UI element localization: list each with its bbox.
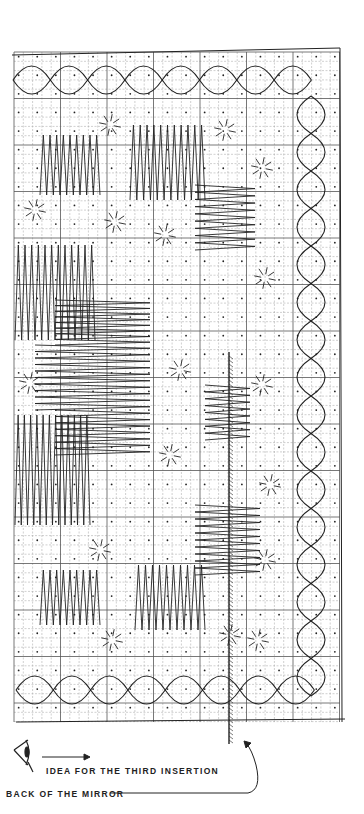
third-insertion-label: IDEA FOR THE THIRD INSERTION (46, 766, 219, 776)
graph-grid (14, 52, 340, 722)
eye-icon (14, 740, 33, 772)
right-arrow-icon (42, 754, 90, 760)
back-of-mirror-label: BACK OF THE MIRROR (6, 789, 124, 799)
embroidery-diagram (0, 0, 364, 814)
